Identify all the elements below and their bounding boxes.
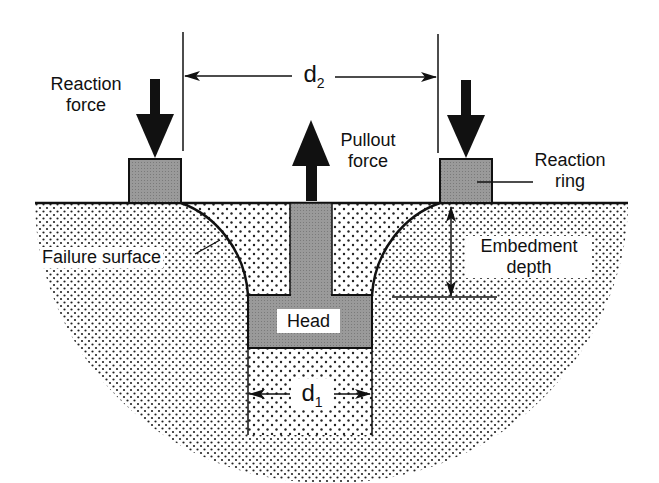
insert-stem <box>290 203 332 297</box>
d2-label-base: d <box>303 60 316 87</box>
reaction-ring-label-line1: Reaction <box>520 150 620 171</box>
pullout-force-arrow <box>292 120 330 201</box>
reaction-force-label-line1: Reaction <box>36 74 136 95</box>
reaction-force-label-line2: force <box>36 95 136 116</box>
reaction-ring-right <box>440 159 492 203</box>
pullout-force-label: Pullout force <box>328 130 408 172</box>
embedment-depth-label-line1: Embedment <box>466 236 592 257</box>
reaction-force-arrow-left <box>136 79 174 158</box>
reaction-force-arrow-right <box>447 80 485 158</box>
head-label-text: Head <box>287 311 330 331</box>
reaction-ring-left <box>129 159 181 203</box>
embedment-depth-label-line2: depth <box>466 257 592 278</box>
failure-surface-label-text: Failure surface <box>42 247 161 267</box>
d2-label-subscript: 2 <box>317 75 325 91</box>
reaction-force-label: Reaction force <box>36 74 136 116</box>
d1-label-base: d <box>301 379 314 406</box>
reaction-ring-label-line2: ring <box>520 171 620 192</box>
failure-surface-label: Failure surface <box>40 247 163 268</box>
d1-label: d1 <box>291 379 333 410</box>
head-label: Head <box>277 309 340 333</box>
embedment-depth-label: Embedment depth <box>466 236 592 278</box>
pullout-force-label-line2: force <box>328 151 408 172</box>
d1-label-subscript: 1 <box>315 394 323 410</box>
d2-label: d2 <box>293 60 335 91</box>
pullout-force-label-line1: Pullout <box>328 130 408 151</box>
reaction-ring-label: Reaction ring <box>520 150 620 192</box>
